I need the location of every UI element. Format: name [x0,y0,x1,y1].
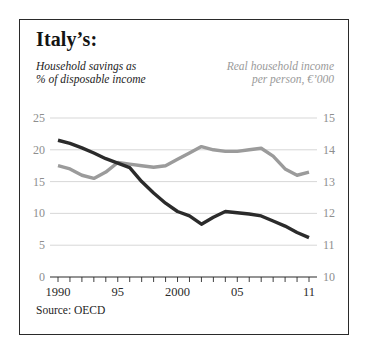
left-axis-tick-label: 5 [21,239,45,251]
right-axis-tick-label: 12 [323,207,347,219]
x-axis-tick-label: 1990 [46,286,71,299]
left-axis-tick-label: 15 [21,176,45,188]
right-axis-tick-label: 13 [323,176,347,188]
series-line-light [58,147,309,179]
left-axis-tick-label: 0 [21,271,45,283]
x-axis-tick-label: 95 [112,286,125,299]
right-axis-tick-label: 10 [323,271,347,283]
right-axis-tick-label: 11 [323,239,347,251]
left-axis-tick-label: 25 [21,112,45,124]
source-note: Source: OECD [36,305,105,317]
chart-canvas [0,0,370,353]
gridlines-group [50,118,317,277]
right-axis-tick-label: 14 [323,144,347,156]
x-axis-tick-label: 2000 [165,286,190,299]
left-axis-tick-label: 10 [21,207,45,219]
x-axis-tick-label: 11 [303,286,315,299]
xaxis-ticks-group [58,277,309,282]
right-axis-tick-label: 15 [323,112,347,124]
left-axis-tick-label: 20 [21,144,45,156]
chart-page: Italy’s: Household savings as % of dispo… [0,0,370,353]
x-axis-tick-label: 05 [231,286,244,299]
